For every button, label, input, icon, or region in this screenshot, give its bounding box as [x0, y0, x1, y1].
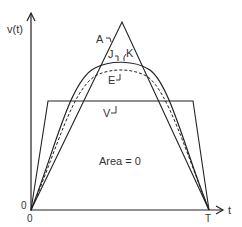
curve-j-label: J: [108, 48, 114, 60]
end-time-label: T: [205, 213, 211, 224]
curve-k-label: K: [126, 47, 134, 59]
curve-v-leader: [111, 106, 116, 113]
x-axis-label: t: [228, 204, 231, 216]
curve-a-label: A: [96, 33, 104, 45]
curve-a-leader: [106, 38, 111, 42]
curve-e-label: E: [108, 74, 115, 86]
curve-e-leader: [116, 74, 120, 80]
x-axis: [31, 206, 223, 214]
curve-e-dashed: [31, 70, 209, 210]
curve-j-leader: [115, 56, 118, 61]
y-axis: [27, 13, 35, 211]
area-annotation: Area = 0: [99, 155, 141, 167]
curve-v-label: V: [103, 107, 111, 119]
curve-a-triangle: [31, 22, 209, 210]
curve-j-k-solid: [31, 62, 209, 210]
origin-y-label: 0: [21, 200, 27, 211]
y-axis-label: v(t): [7, 23, 23, 35]
velocity-profile-diagram: v(t) t 0 0 T Area = 0 A J K E V: [0, 0, 242, 227]
origin-x-label: 0: [27, 213, 33, 224]
